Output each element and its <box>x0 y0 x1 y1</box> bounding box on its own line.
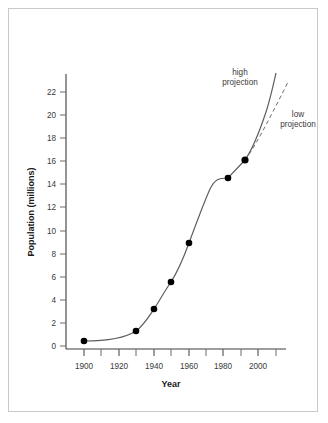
y-tick-label: 2 <box>51 319 56 328</box>
annotation-high-projection: high projection <box>222 68 258 87</box>
y-tick-label: 12 <box>47 203 57 212</box>
x-axis-ticks <box>84 349 276 356</box>
x-tick-label: 1960 <box>180 362 199 371</box>
x-tick-label: 1980 <box>214 362 233 371</box>
annotation-low-projection: low projection <box>280 110 316 129</box>
data-point <box>241 156 248 163</box>
data-point <box>225 175 232 182</box>
data-point <box>168 279 175 286</box>
annotation-low-line1: low <box>292 110 304 119</box>
y-tick-label: 14 <box>47 180 57 189</box>
x-tick-label: 2000 <box>249 362 268 371</box>
x-tick-label: 1920 <box>110 362 129 371</box>
x-tick-label: 1900 <box>75 362 94 371</box>
y-tick-label: 18 <box>47 134 57 143</box>
x-axis-tick-labels: 1900 1920 1940 1960 1980 2000 <box>75 362 268 371</box>
population-line-chart: 22 20 18 16 14 12 10 8 6 4 2 0 <box>0 0 328 423</box>
data-point <box>133 328 140 335</box>
data-point <box>186 240 193 247</box>
x-tick-label: 1940 <box>145 362 164 371</box>
y-axis-title: Population (millions) <box>26 168 36 257</box>
y-tick-label: 0 <box>51 342 56 351</box>
y-axis-tick-labels: 22 20 18 16 14 12 10 8 6 4 2 0 <box>47 88 57 351</box>
annotation-high-line1: high <box>232 68 248 77</box>
figure-container: 22 20 18 16 14 12 10 8 6 4 2 0 <box>0 0 328 423</box>
annotation-high-line2: projection <box>222 78 258 87</box>
y-tick-label: 20 <box>47 111 57 120</box>
y-tick-label: 8 <box>51 250 56 259</box>
data-point <box>151 306 158 313</box>
y-tick-label: 10 <box>47 227 57 236</box>
y-tick-label: 6 <box>51 273 56 282</box>
annotation-low-line2: projection <box>280 120 316 129</box>
y-tick-label: 16 <box>47 157 57 166</box>
x-axis-title: Year <box>161 379 181 389</box>
population-curve-with-high-projection <box>84 73 276 341</box>
y-tick-label: 4 <box>51 296 56 305</box>
data-point-markers <box>81 156 249 344</box>
y-axis-ticks <box>60 92 66 346</box>
data-point <box>81 338 88 345</box>
y-tick-label: 22 <box>47 88 57 97</box>
